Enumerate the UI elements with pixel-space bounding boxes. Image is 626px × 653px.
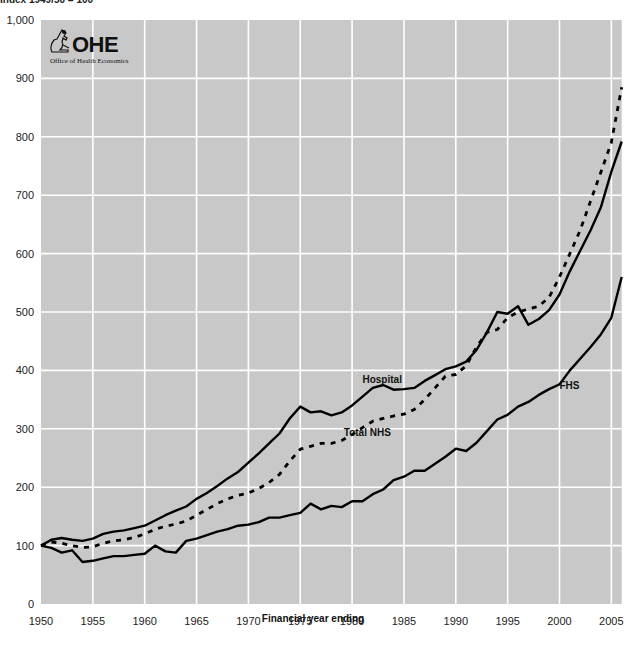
logo-text: OHE — [72, 32, 118, 58]
y-tick-label: 200 — [16, 481, 34, 493]
y-axis: 01002003004005006007008009001,000 — [6, 14, 34, 610]
y-tick-label: 600 — [16, 248, 34, 260]
logo-subtitle: Office of Health Economics — [50, 57, 129, 65]
y-tick-label: 900 — [16, 72, 34, 84]
y-tick-label: 100 — [16, 540, 34, 552]
y-tick-label: 400 — [16, 364, 34, 376]
line-chart: 01002003004005006007008009001,000 195019… — [0, 0, 626, 653]
series-label: FHS — [560, 380, 580, 391]
y-tick-label: 300 — [16, 423, 34, 435]
y-tick-label: 0 — [28, 598, 34, 610]
y-tick-label: 1,000 — [6, 14, 34, 26]
series-label: Hospital — [362, 374, 402, 385]
x-axis-title: Financial year ending — [0, 613, 626, 624]
microscope-icon — [50, 28, 74, 56]
series-label: Total NHS — [344, 427, 391, 438]
y-tick-label: 500 — [16, 306, 34, 318]
y-tick-label: 800 — [16, 131, 34, 143]
y-tick-label: 700 — [16, 189, 34, 201]
